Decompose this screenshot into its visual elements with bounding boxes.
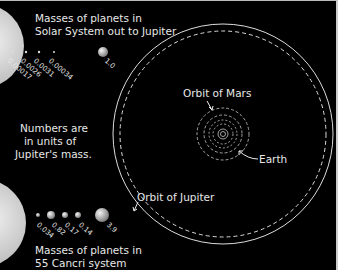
cancri-planet-icon	[36, 213, 40, 217]
planet-mars-icon	[53, 51, 55, 53]
cancri-planet-icon	[95, 208, 109, 222]
cancri-planet-icon	[62, 212, 68, 218]
cancri-title-line1: Masses of planets in	[35, 244, 142, 256]
orbit-55cancri-outer	[113, 24, 333, 244]
orbit-jupiter	[120, 31, 326, 237]
diagram: Masses of planets in Solar System out to…	[0, 0, 338, 270]
orbit-inner	[213, 124, 233, 144]
label-orbit-mars: Orbit of Mars	[183, 87, 251, 99]
planet-venus-icon	[25, 51, 27, 53]
note-line3: Jupiter's mass.	[15, 148, 85, 160]
cancri-title-line2: 55 Cancri system	[35, 257, 126, 269]
solar-title-line2: Solar System out to Jupiter	[35, 25, 176, 37]
planet-mercury-icon	[12, 51, 14, 53]
cancri-planet-icon	[75, 212, 81, 218]
note-line2: in units of	[20, 135, 80, 147]
orbit-earth	[204, 115, 242, 153]
sun-icon-cancri	[0, 179, 26, 267]
solar-title-line1: Masses of planets in	[35, 12, 142, 24]
planet-jupiter-icon	[98, 47, 108, 57]
orbit-innermost	[221, 132, 226, 137]
planet-earth-icon	[38, 51, 40, 53]
orbit-mercury	[218, 129, 228, 139]
label-orbit-jupiter: Orbit of Jupiter	[137, 191, 214, 203]
note-line1: Numbers are	[20, 122, 80, 134]
cancri-planet-icon	[47, 211, 55, 219]
label-earth: Earth	[259, 153, 287, 165]
arrow-earth-icon	[239, 151, 258, 159]
